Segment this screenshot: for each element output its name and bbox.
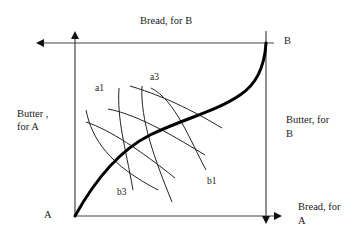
curve-label-a1: a1	[95, 82, 104, 95]
curve-label-b3: b3	[117, 186, 127, 199]
curve-label-b1: b1	[207, 175, 217, 188]
indifference-curve-b2	[142, 86, 172, 202]
curve-label-a3: a3	[150, 71, 159, 84]
left-axis-label-line1: Butter ,	[17, 107, 49, 120]
bottom-axis-label-line2: A	[298, 214, 306, 227]
left-axis-label-line2: for A	[17, 120, 39, 133]
bottom-axis-label-line1: Bread, for	[298, 200, 341, 213]
origin-b-label: B	[284, 34, 291, 47]
right-axis-label-line1: Butter, for	[286, 113, 329, 126]
indifference-curve-a-outer	[86, 110, 158, 190]
origin-a-label: A	[44, 208, 52, 221]
top-axis-label: Bread, for B	[140, 14, 192, 27]
right-axis-label-line2: B	[286, 127, 293, 140]
